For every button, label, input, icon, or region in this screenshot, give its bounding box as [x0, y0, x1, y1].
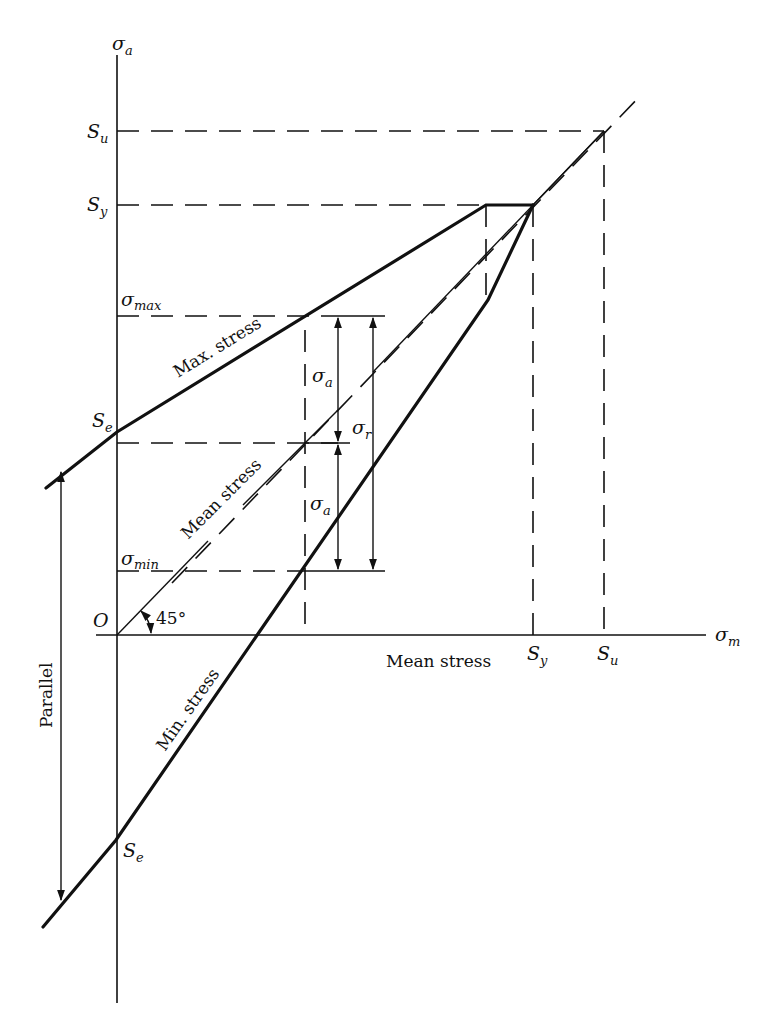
y-axis-label: σa: [112, 32, 133, 58]
sigma-a-upper-label: σa: [312, 364, 333, 390]
tick-smin-y: σmin: [121, 547, 159, 572]
tick-su-y: Su: [87, 120, 108, 146]
tick-se-y: Se: [92, 409, 113, 435]
tick-sy-y: Sy: [87, 193, 108, 219]
max-stress-line: [46, 205, 533, 488]
tick-sy-x: Sy: [527, 642, 548, 668]
parallel-label: Parallel: [36, 663, 56, 728]
tick-smax-y: σmax: [121, 288, 162, 313]
mean-stress-label: Mean stress: [177, 454, 265, 542]
origin-label: O: [93, 609, 109, 631]
min-stress-label: Min. stress: [152, 664, 223, 754]
angle-arc: [141, 611, 151, 633]
sigma-r-label: σr: [352, 416, 372, 442]
tick-su-x: Su: [597, 642, 618, 668]
goodman-diagram: σa σm O Mean stress Su Sy σmax Se σmin S…: [0, 0, 778, 1030]
x-caption: Mean stress: [386, 651, 491, 671]
sy-to-su-line: [533, 131, 604, 205]
mean-stress-line-mid: [243, 410, 338, 505]
sigma-a-lower-label: σa: [310, 492, 331, 518]
x-axis-label: σm: [715, 623, 740, 649]
tick-se-neg-y: Se: [123, 839, 144, 865]
angle-label: 45°: [156, 608, 186, 628]
